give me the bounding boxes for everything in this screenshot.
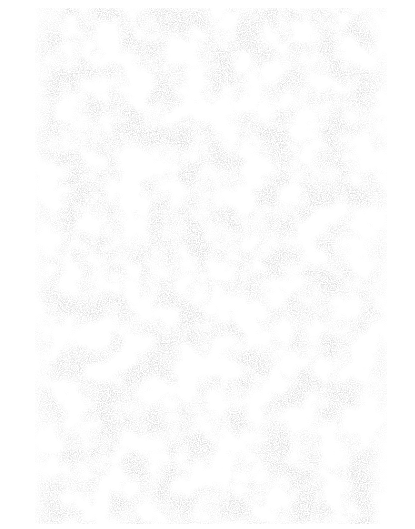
speckle-texture-region <box>35 8 387 524</box>
page-description: Blank speckled paper texture <box>0 0 1 1</box>
noise-texture <box>35 8 387 524</box>
blank-page: Blank speckled paper texture <box>0 0 415 529</box>
